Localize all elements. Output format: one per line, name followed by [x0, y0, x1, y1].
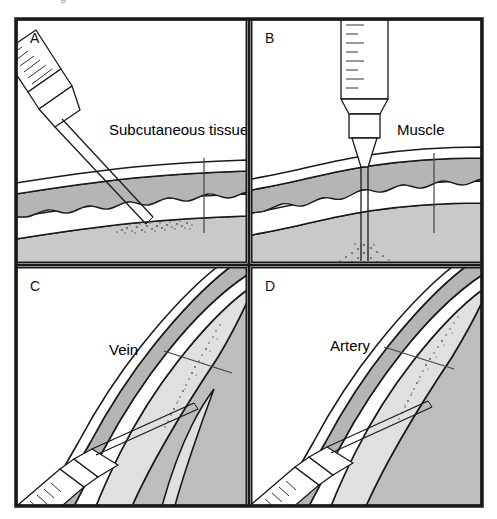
injection-routes-figure: g — [0, 0, 497, 519]
panel-a-content: A Subcutaneous tissue — [14, 19, 248, 263]
clipped-caption-fragment: g — [60, 0, 240, 3]
panel-b-content: B Muscle — [251, 17, 482, 267]
panel-d-content: D Artery — [239, 267, 482, 508]
label-vein: Vein — [109, 341, 138, 358]
panel-letter-a: A — [30, 30, 40, 46]
panel-grid: A Subcutaneous tissue — [14, 17, 484, 508]
panel-letter-c: C — [30, 278, 40, 294]
figure-canvas: A Subcutaneous tissue — [14, 17, 484, 508]
label-subcutaneous-tissue: Subcutaneous tissue — [109, 121, 248, 138]
panel-letter-d: D — [265, 278, 275, 294]
panel-c-content: C Vein — [14, 267, 247, 508]
label-muscle: Muscle — [397, 121, 445, 138]
panel-letter-b: B — [265, 30, 274, 46]
label-artery: Artery — [330, 337, 371, 354]
